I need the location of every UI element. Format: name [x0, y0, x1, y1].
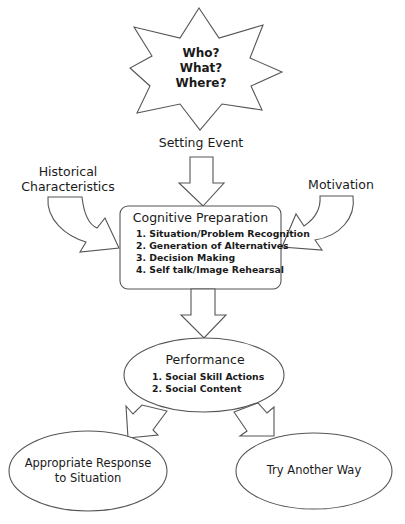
cognitive-preparation-title: Cognitive Preparation	[120, 210, 281, 225]
cognitive-to-performance-arrow	[181, 289, 226, 338]
performance-item: 1. Social Skill Actions	[152, 371, 264, 383]
star-what: What?	[160, 61, 242, 76]
performance-title: Performance	[150, 352, 260, 367]
appropriate-line-1: Appropriate Response	[18, 456, 158, 471]
historical-line-1: Historical	[14, 164, 122, 179]
performance-to-appropriate-arrow	[126, 405, 167, 438]
star-label: Who? What? Where?	[160, 46, 242, 91]
historical-line-2: Characteristics	[14, 179, 122, 194]
cognitive-step: 1. Situation/Problem Recognition	[136, 228, 310, 240]
star-where: Where?	[160, 76, 242, 91]
cognitive-step: 2. Generation of Alternatives	[136, 240, 310, 252]
try-another-way-label: Try Another Way	[254, 463, 374, 477]
historical-curved-arrow	[48, 197, 119, 252]
performance-items-list: 1. Social Skill Actions 2. Social Conten…	[152, 371, 264, 395]
motivation-label: Motivation	[306, 177, 376, 192]
appropriate-line-2: to Situation	[18, 471, 158, 486]
historical-characteristics-label: Historical Characteristics	[14, 164, 122, 194]
appropriate-response-label: Appropriate Response to Situation	[18, 456, 158, 486]
setting-event-label: Setting Event	[140, 135, 262, 150]
cognitive-step: 4. Self talk/Image Rehearsal	[136, 264, 310, 276]
setting-event-arrow	[179, 157, 224, 206]
cognitive-step: 3. Decision Making	[136, 252, 310, 264]
cognitive-steps-list: 1. Situation/Problem Recognition 2. Gene…	[136, 228, 310, 276]
star-who: Who?	[160, 46, 242, 61]
performance-item: 2. Social Content	[152, 383, 264, 395]
